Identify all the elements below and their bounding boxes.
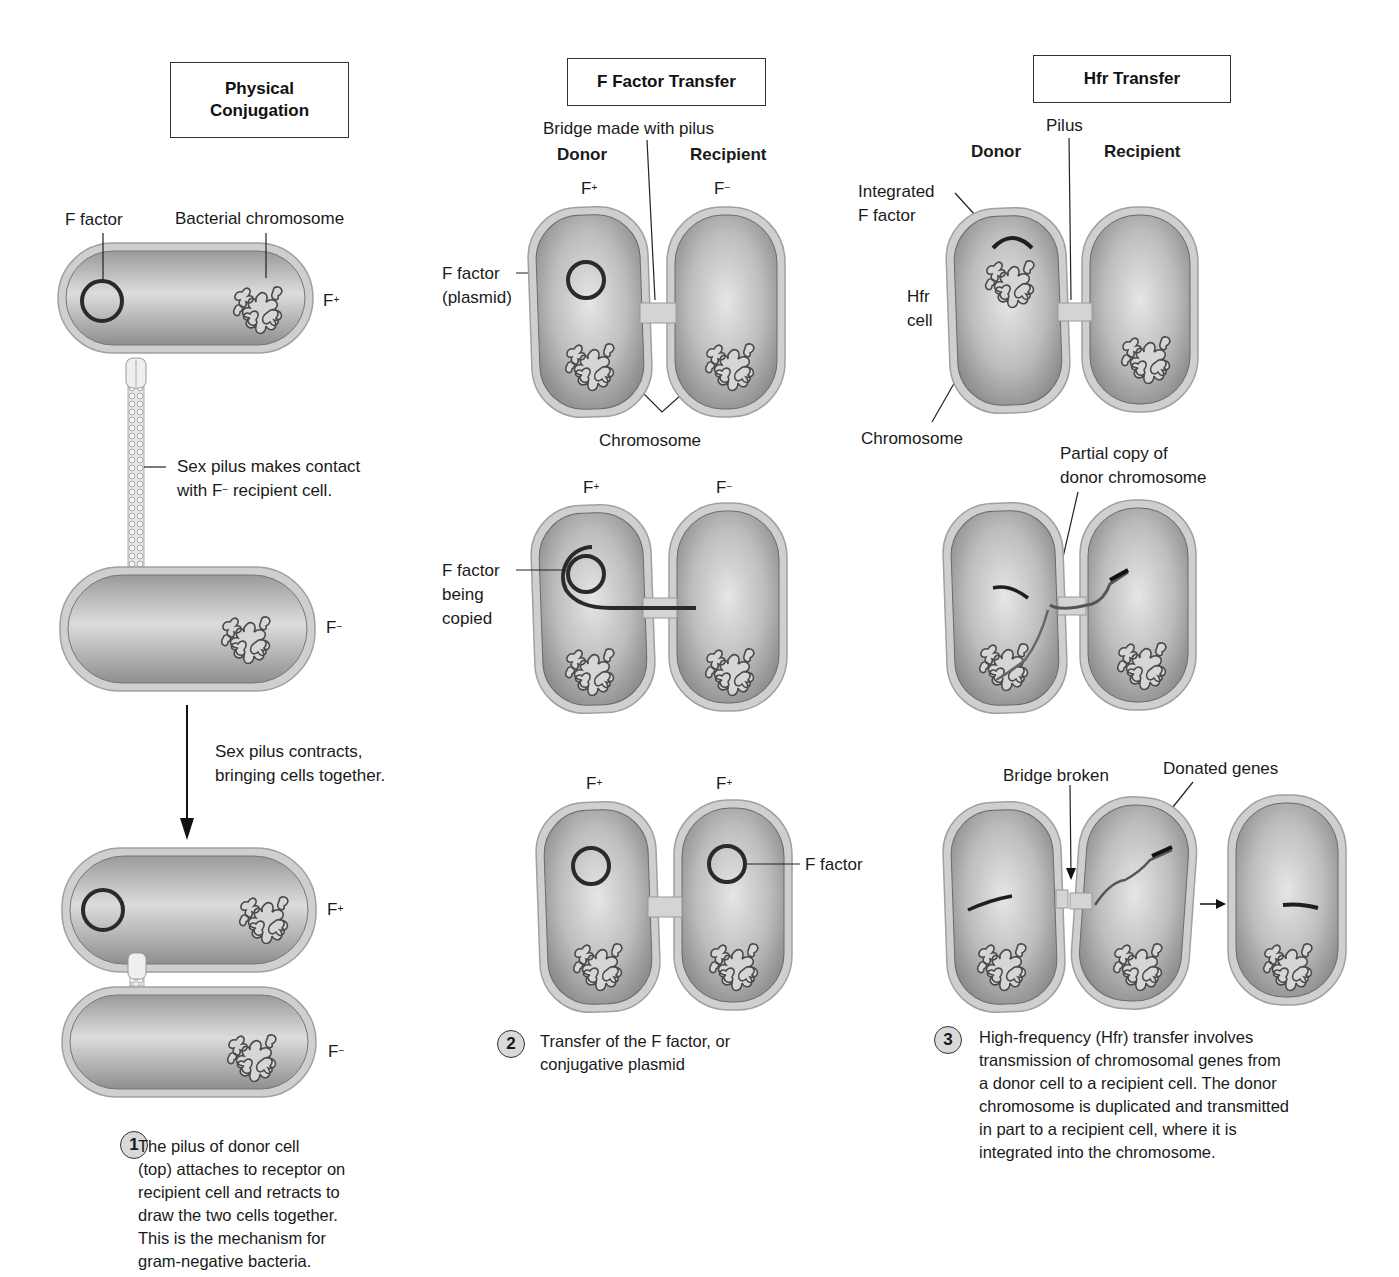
label-chromosome: Chromosome	[599, 429, 701, 453]
label-f-minus: F−	[714, 177, 730, 201]
label-donated-genes: Donated genes	[1163, 757, 1278, 781]
label-integrated-f-factor: Integrated F factor	[858, 180, 935, 228]
step-badge-2: 2	[497, 1030, 525, 1058]
step-caption-2: Transfer of the F factor, or conjugative…	[540, 1030, 730, 1076]
panel-title-hfr-transfer: Hfr Transfer	[1033, 55, 1231, 103]
hfr-stage1	[944, 206, 1198, 415]
label-f-minus: F−	[716, 476, 732, 500]
label-f-minus: F−	[328, 1040, 344, 1064]
step-caption-1: The pilus of donor cell (top) attaches t…	[138, 1135, 345, 1273]
label-recipient: Recipient	[1104, 140, 1181, 164]
label-f-plus: F+	[586, 772, 602, 796]
label-partial-copy: Partial copy of donor chromosome	[1060, 442, 1206, 490]
panel-title-f-factor-transfer: F Factor Transfer	[567, 58, 766, 106]
label-f-minus: F−	[326, 616, 342, 640]
label-donor: Donor	[971, 140, 1021, 164]
step-badge-3: 3	[934, 1026, 962, 1054]
label-f-factor-being-copied: F factor being copied	[442, 559, 500, 631]
panel-title-physical-conjugation: Physical Conjugation	[170, 62, 349, 138]
hfr-stage3	[941, 793, 1346, 1014]
donor-rod-cell-top	[58, 243, 313, 353]
label-bridge-broken: Bridge broken	[1003, 764, 1109, 788]
step-caption-3: High-frequency (Hfr) transfer involves t…	[979, 1026, 1289, 1164]
label-f-factor-plasmid: F factor (plasmid)	[442, 262, 512, 310]
label-f-plus: F+	[716, 772, 732, 796]
donor-rod-cell-bottom	[62, 848, 316, 972]
label-f-plus: F+	[583, 476, 599, 500]
label-recipient: Recipient	[690, 143, 767, 167]
recipient-rod-cell-mid	[60, 567, 315, 691]
label-bacterial-chromosome: Bacterial chromosome	[175, 207, 344, 231]
label-f-plus: F+	[327, 898, 343, 922]
label-f-plus: F+	[323, 289, 339, 313]
f-transfer-stage1	[526, 205, 785, 419]
label-chromosome: Chromosome	[861, 427, 963, 451]
recipient-rod-cell-bottom	[62, 987, 316, 1097]
label-pilus-contracts: Sex pilus contracts, bringing cells toge…	[215, 740, 385, 788]
label-bridge: Bridge made with pilus	[543, 117, 714, 141]
f-transfer-stage2	[516, 503, 787, 715]
label-pilus-contact: Sex pilus makes contact with F− recipien…	[177, 455, 360, 503]
label-donor: Donor	[557, 143, 607, 167]
label-f-factor: F factor	[65, 208, 123, 232]
label-hfr-cell: Hfr cell	[907, 285, 933, 333]
title-line: Physical	[210, 78, 309, 100]
f-transfer-stage3	[534, 800, 800, 1014]
label-f-plus: F+	[581, 177, 597, 201]
label-f-factor: F factor	[805, 853, 863, 877]
label-pilus: Pilus	[1046, 114, 1083, 138]
title-line: Conjugation	[210, 100, 309, 122]
